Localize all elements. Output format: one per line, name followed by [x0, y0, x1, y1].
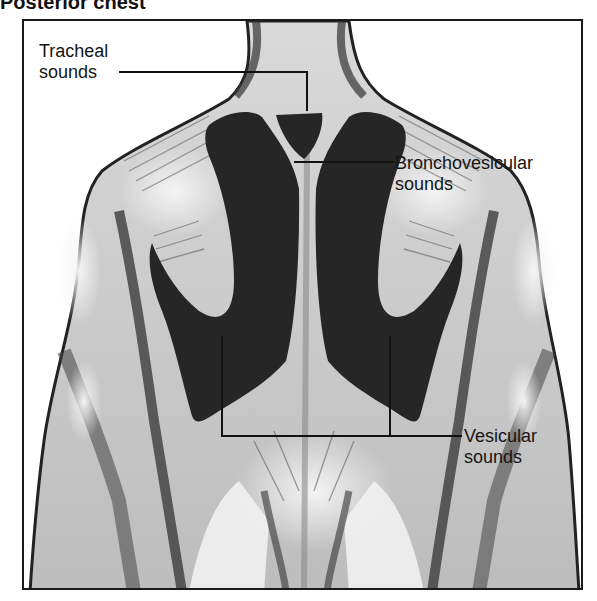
vesicular-label: Vesicular sounds — [464, 426, 537, 468]
tracheal-label: Tracheal sounds — [39, 41, 108, 83]
torso-silhouette — [30, 21, 579, 590]
posterior-torso-illustration — [24, 21, 583, 590]
figure-title: Posterior chest — [0, 0, 146, 14]
illustration-frame: Tracheal sounds Bronchovesicular sounds … — [22, 19, 583, 590]
bronchovesicular-label: Bronchovesicular sounds — [395, 153, 533, 195]
